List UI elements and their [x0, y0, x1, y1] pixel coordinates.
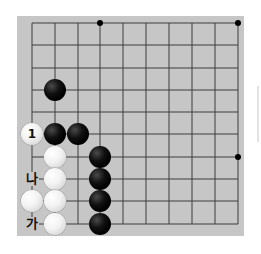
white-stone[interactable]: 1: [21, 123, 43, 145]
black-stone[interactable]: [89, 146, 111, 168]
point-label[interactable]: 나: [25, 172, 39, 186]
star-point-icon: [97, 20, 103, 26]
white-stone[interactable]: [44, 190, 66, 212]
point-label[interactable]: 가: [25, 217, 39, 231]
black-stone[interactable]: [44, 79, 66, 101]
adjacent-panel-edge: [257, 86, 259, 142]
black-stone[interactable]: [89, 168, 111, 190]
white-stone[interactable]: [21, 190, 43, 212]
black-stone[interactable]: [67, 123, 89, 145]
white-stone[interactable]: [44, 146, 66, 168]
white-stone[interactable]: [44, 168, 66, 190]
black-stone[interactable]: [44, 123, 66, 145]
black-stone[interactable]: [89, 190, 111, 212]
black-stone[interactable]: [89, 213, 111, 235]
star-point-icon: [235, 20, 241, 26]
star-point-icon: [235, 154, 241, 160]
white-stone[interactable]: [44, 213, 66, 235]
move-number: 1: [28, 127, 36, 141]
